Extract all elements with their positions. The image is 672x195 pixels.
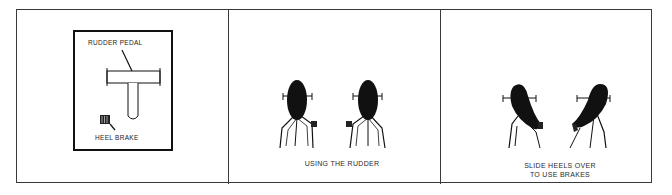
- caption-brakes-line1: SLIDE HEELS OVER: [500, 161, 620, 170]
- caption-brakes-line2: TO USE BRAKES: [500, 170, 620, 179]
